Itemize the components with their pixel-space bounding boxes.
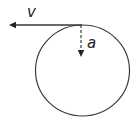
acceleration-label: a <box>87 34 96 52</box>
velocity-label: v <box>27 3 37 21</box>
background <box>0 0 135 120</box>
circular-motion-diagram: v a <box>0 0 135 120</box>
